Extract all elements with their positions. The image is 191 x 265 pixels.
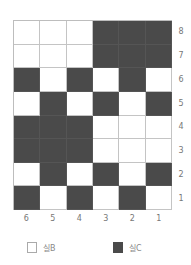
dark-cell [93,92,119,116]
legend: 실B 실C [0,242,191,256]
dark-cell [67,139,93,163]
dark-cell [93,163,119,187]
dark-cell [67,186,93,210]
dark-cell [40,92,66,116]
dark-cell [119,45,145,69]
dark-cell [14,68,40,92]
light-cell [93,68,119,92]
light-cell [119,92,145,116]
light-cell [67,92,93,116]
dark-cell [14,139,40,163]
row-label: 1 [174,186,188,210]
row-label: 4 [174,115,188,139]
column-label: 4 [66,212,93,224]
legend-item-yarn-c: 실C [113,242,142,253]
light-cell [67,21,93,45]
legend-label: 실C [129,242,142,253]
light-cell [40,68,66,92]
light-cell [146,186,172,210]
row-label: 2 [174,163,188,187]
dark-cell [14,186,40,210]
row-label: 5 [174,91,188,115]
light-cell [67,163,93,187]
dark-cell [40,139,66,163]
dark-cell [40,163,66,187]
light-cell [40,21,66,45]
column-label: 5 [40,212,67,224]
dark-cell [14,116,40,140]
column-label: 6 [13,212,40,224]
dark-cell [119,68,145,92]
light-cell [119,163,145,187]
column-label: 3 [93,212,120,224]
column-label: 2 [119,212,146,224]
light-cell [67,45,93,69]
light-cell [119,139,145,163]
light-cell [119,116,145,140]
row-labels: 8 7 6 5 4 3 2 1 [174,20,188,210]
row-label: 3 [174,139,188,163]
light-cell [14,21,40,45]
column-label: 1 [146,212,173,224]
light-cell [93,139,119,163]
pattern-grid [13,20,172,210]
light-cell [93,116,119,140]
light-cell [146,68,172,92]
dark-cell [146,21,172,45]
dark-cell [146,163,172,187]
light-cell [146,116,172,140]
legend-item-yarn-b: 실B [27,242,56,253]
dark-cell [119,186,145,210]
dark-cell [93,21,119,45]
light-cell [14,163,40,187]
dark-cell [67,116,93,140]
row-label: 6 [174,68,188,92]
dark-cell [40,116,66,140]
dark-cell [93,45,119,69]
dark-swatch-icon [113,242,123,253]
row-label: 7 [174,44,188,68]
dark-cell [119,21,145,45]
dark-cell [67,68,93,92]
light-cell [14,45,40,69]
light-cell [40,45,66,69]
light-cell [93,186,119,210]
light-cell [40,186,66,210]
dark-cell [146,92,172,116]
legend-label: 실B [43,242,56,253]
column-labels: 6 5 4 3 2 1 [13,212,172,224]
row-label: 8 [174,20,188,44]
light-cell [146,139,172,163]
light-swatch-icon [27,242,37,253]
dark-cell [146,45,172,69]
light-cell [14,92,40,116]
